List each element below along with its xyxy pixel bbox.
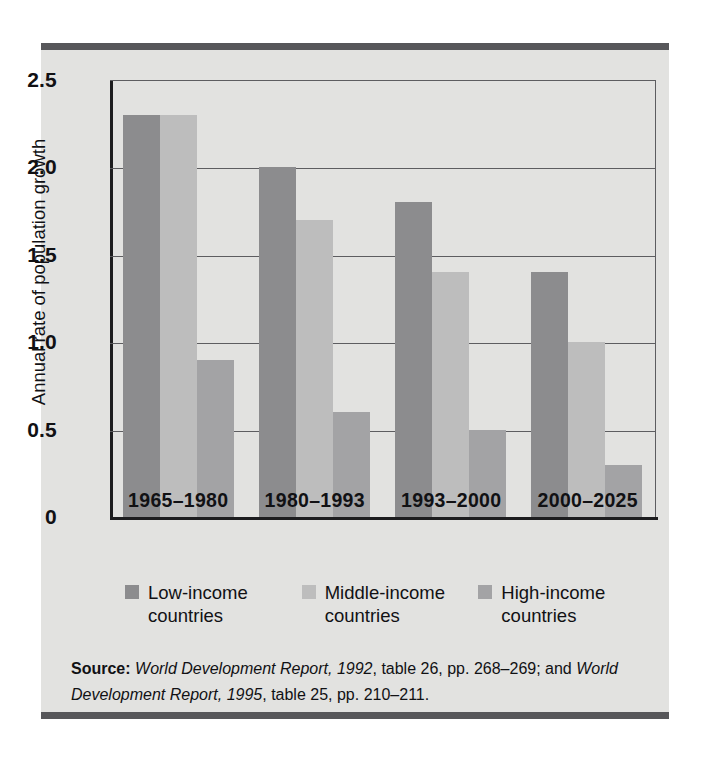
bar[interactable] — [123, 115, 160, 517]
bar[interactable] — [296, 220, 333, 517]
bar[interactable] — [160, 115, 197, 517]
figure-panel: 00.51.01.52.02.5 Annual rate of populati… — [41, 43, 669, 719]
bar-group — [519, 81, 655, 517]
legend-label: High-incomecountries — [501, 582, 605, 627]
source-note: Source: World Development Report, 1992, … — [71, 656, 646, 708]
legend-swatch-icon — [125, 585, 139, 599]
bar-groups — [110, 81, 655, 517]
plot-area — [110, 80, 656, 517]
source-ref2-detail: , table 25, pp. 210–211. — [262, 686, 429, 703]
bar-group — [110, 81, 246, 517]
bar[interactable] — [395, 202, 432, 517]
source-ref1-detail: , table 26, pp. 268–269; and — [372, 660, 576, 677]
bottom-rule — [41, 712, 669, 719]
legend-label: Middle-incomecountries — [325, 582, 445, 627]
x-tick-label: 2000–2025 — [508, 489, 668, 512]
y-tick-label: 0 — [0, 505, 57, 529]
legend-swatch-icon — [302, 585, 316, 599]
legend-item[interactable]: Middle-incomecountries — [302, 582, 479, 627]
legend: Low-incomecountriesMiddle-incomecountrie… — [125, 582, 655, 627]
legend-swatch-icon — [478, 585, 492, 599]
source-label: Source: — [71, 660, 131, 677]
legend-item[interactable]: Low-incomecountries — [125, 582, 302, 627]
bar-group — [246, 81, 382, 517]
top-rule — [41, 43, 669, 50]
source-ref1-title: World Development Report, 1992 — [135, 660, 372, 677]
y-axis-title: Annual rate of population growth — [28, 42, 50, 502]
bar[interactable] — [259, 167, 296, 517]
bar-group — [383, 81, 519, 517]
x-axis-line — [110, 517, 658, 520]
legend-item[interactable]: High-incomecountries — [478, 582, 655, 627]
legend-label: Low-incomecountries — [148, 582, 248, 627]
bar[interactable] — [432, 272, 469, 517]
bar[interactable] — [531, 272, 568, 517]
